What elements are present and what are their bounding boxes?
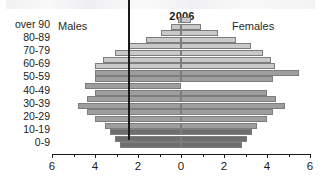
bar-females-10-14 — [181, 129, 252, 135]
x-tick-6 — [310, 154, 311, 158]
x-tick--2 — [138, 154, 139, 158]
y-axis-label-over-90: over 90 — [0, 19, 50, 30]
bar-males-80-84 — [146, 37, 181, 43]
bar-males-55-59 — [95, 70, 181, 76]
bar-females-95+ — [181, 17, 191, 23]
y-axis-label-0-9: 0-9 — [0, 137, 50, 148]
x-tick-label-4: 4 — [252, 160, 282, 172]
bar-males-10-14 — [110, 129, 181, 135]
bar-males-5-9 — [115, 136, 181, 142]
x-tick-2 — [224, 154, 225, 158]
bar-males-60-64 — [95, 63, 181, 69]
bar-males-40-44 — [95, 90, 181, 96]
bar-females-35-39 — [181, 96, 276, 102]
bar-females-20-24 — [181, 116, 267, 122]
bar-females-50-54 — [181, 76, 273, 82]
bar-males-35-39 — [87, 96, 181, 102]
scan-artifact — [6, 0, 315, 9]
population-pyramid-chart: 2006 Males Females over 9080-8970-7960-6… — [0, 0, 321, 178]
x-tick-label--6: 6 — [37, 160, 67, 172]
y-axis-label-70-79: 70-79 — [0, 45, 50, 56]
bar-males-45-49 — [85, 83, 181, 89]
bar-females-70-74 — [181, 50, 263, 56]
bar-females-5-9 — [181, 136, 247, 142]
bar-males-0-4 — [120, 142, 181, 148]
x-tick--3 — [117, 154, 118, 157]
bar-females-25-29 — [181, 109, 273, 115]
x-tick-label--4: 4 — [80, 160, 110, 172]
x-tick-0 — [181, 154, 182, 158]
y-axis-label-30-39: 30-39 — [0, 98, 50, 109]
bar-females-65-69 — [181, 57, 271, 63]
bar-females-85-89 — [181, 30, 218, 36]
x-tick--1 — [160, 154, 161, 157]
bar-females-55-59 — [181, 70, 299, 76]
bar-males-50-54 — [95, 76, 181, 82]
x-tick-1 — [203, 154, 204, 157]
x-tick-label-0: 0 — [166, 160, 196, 172]
bar-females-15-19 — [181, 123, 257, 129]
bar-males-75-79 — [129, 43, 181, 49]
x-tick--5 — [74, 154, 75, 157]
bar-males-85-89 — [161, 30, 181, 36]
x-tick-4 — [267, 154, 268, 158]
plot-area — [52, 15, 310, 149]
x-tick-3 — [246, 154, 247, 157]
y-axis-label-60-69: 60-69 — [0, 58, 50, 69]
x-tick-5 — [289, 154, 290, 157]
y-axis-labels: over 9080-8970-7960-6950-5940-4930-3920-… — [0, 15, 50, 149]
bar-males-25-29 — [87, 109, 181, 115]
center-axis-line — [128, 0, 129, 140]
bar-females-60-64 — [181, 63, 275, 69]
x-tick--6 — [52, 154, 53, 158]
bar-males-15-19 — [105, 123, 181, 129]
bar-males-70-74 — [115, 50, 181, 56]
bar-females-30-34 — [181, 103, 285, 109]
bar-females-80-84 — [181, 37, 236, 43]
bar-females-0-4 — [181, 142, 242, 148]
y-axis-label-50-59: 50-59 — [0, 71, 50, 82]
bar-females-75-79 — [181, 43, 251, 49]
bar-males-90-94 — [171, 24, 181, 30]
x-tick-label-6: 6 — [295, 160, 321, 172]
y-axis-label-20-29: 20-29 — [0, 111, 50, 122]
bar-males-65-69 — [103, 57, 181, 63]
y-axis-label-80-89: 80-89 — [0, 32, 50, 43]
y-axis-label-10-19: 10-19 — [0, 124, 50, 135]
bar-females-90-94 — [181, 24, 201, 30]
bar-females-40-44 — [181, 90, 267, 96]
y-axis-label-40-49: 40-49 — [0, 85, 50, 96]
x-tick-label--2: 2 — [123, 160, 153, 172]
bar-males-20-24 — [95, 116, 181, 122]
x-tick--4 — [95, 154, 96, 158]
x-tick-label-2: 2 — [209, 160, 239, 172]
